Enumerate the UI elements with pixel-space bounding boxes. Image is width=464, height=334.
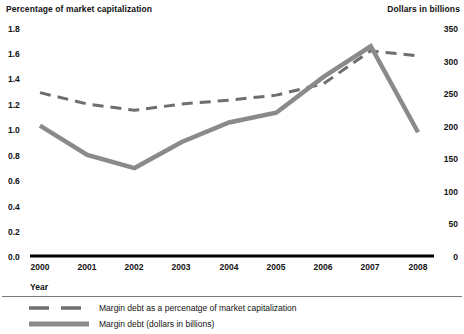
x-axis-tick: 2004 xyxy=(208,262,250,272)
chart-figure: Percentage of market capitalization Doll… xyxy=(0,0,464,334)
x-axis-tick: 2007 xyxy=(349,262,391,272)
x-axis-name: Year xyxy=(30,282,48,292)
x-axis-tick: 2000 xyxy=(19,262,61,272)
chart-legend: Margin debt as a percenatge of market ca… xyxy=(28,300,438,332)
solid-line-swatch xyxy=(28,317,90,331)
x-axis-tick: 2001 xyxy=(66,262,108,272)
legend-item-dollars: Margin debt (dollars in billions) xyxy=(28,316,438,332)
line-series-percentage xyxy=(40,51,418,111)
x-axis-tick: 2008 xyxy=(397,262,439,272)
x-axis-tick: 2002 xyxy=(113,262,155,272)
line-series-dollars xyxy=(40,46,418,168)
legend-label-percentage: Margin debt as a percenatge of market ca… xyxy=(99,303,297,313)
dashed-line-swatch xyxy=(28,301,90,315)
legend-label-dollars: Margin debt (dollars in billions) xyxy=(99,319,214,329)
legend-divider xyxy=(2,296,462,297)
x-axis-tick: 2006 xyxy=(302,262,344,272)
plot-area xyxy=(0,0,464,334)
legend-item-percentage: Margin debt as a percenatge of market ca… xyxy=(28,300,438,316)
x-axis-tick: 2003 xyxy=(160,262,202,272)
x-axis-tick: 2005 xyxy=(255,262,297,272)
